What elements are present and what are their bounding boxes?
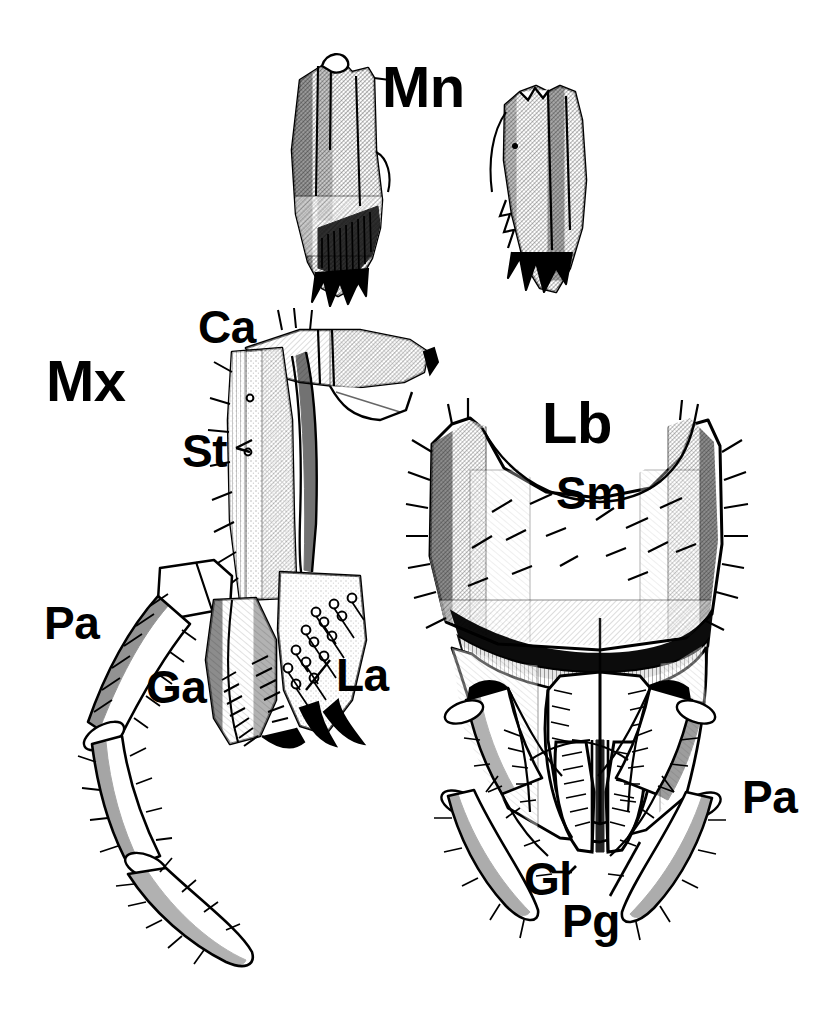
panel-label-labium: Lb <box>542 394 612 452</box>
annotation-pa-maxillary: Pa <box>44 600 99 646</box>
mouthparts-illustration <box>0 0 828 1019</box>
annotation-pa-labial: Pa <box>742 774 797 820</box>
panel-label-maxilla: Mx <box>46 352 126 410</box>
annotation-la: La <box>336 652 389 698</box>
annotation-st: St <box>182 428 227 474</box>
annotation-ga: Ga <box>146 664 206 710</box>
annotation-sm: Sm <box>556 470 627 516</box>
annotation-pg: Pg <box>562 898 620 944</box>
figure-plate: Mn Mx Lb Ca St Pa Ga La Sm Pa Gl Pg <box>0 0 828 1019</box>
annotation-ca: Ca <box>198 304 256 350</box>
panel-label-mandible: Mn <box>382 58 465 116</box>
